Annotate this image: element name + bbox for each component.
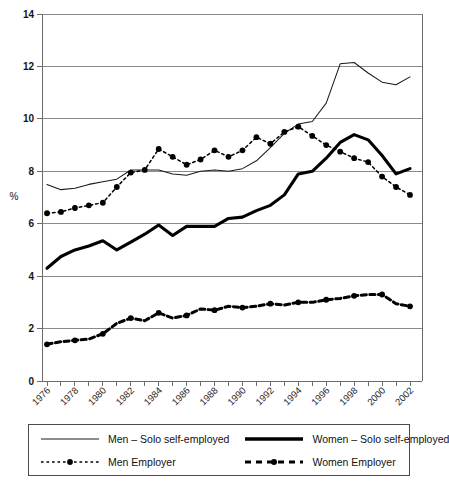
xtick-label-1984: 1984: [141, 385, 164, 408]
ytick-label-2: 2: [28, 323, 34, 334]
marker-women-emp: [295, 299, 301, 305]
legend-label-men-emp: Men Employer: [108, 456, 176, 468]
marker-men-emp: [198, 157, 204, 163]
xtick-label-1996: 1996: [309, 385, 332, 408]
chart-legend: Men – Solo self-employedWomen – Solo sel…: [28, 424, 410, 476]
xtick-label-2002: 2002: [393, 385, 416, 408]
legend-item-men-solo: Men – Solo self-employed: [33, 427, 229, 450]
marker-men-emp: [254, 134, 260, 140]
xtick-label-1978: 1978: [58, 385, 81, 408]
marker-women-emp: [184, 313, 190, 319]
legend-label-women-solo: Women – Solo self-employed: [312, 433, 449, 445]
marker-men-emp: [72, 205, 78, 211]
legend-label-men-solo: Men – Solo self-employed: [108, 433, 229, 445]
marker-men-emp: [295, 124, 301, 130]
marker-men-emp: [323, 142, 329, 148]
legend-swatch-men-emp: [39, 455, 101, 469]
marker-women-emp: [407, 303, 413, 309]
legend-item-women-emp: Women Employer: [229, 450, 449, 473]
marker-men-emp: [114, 184, 120, 190]
marker-men-emp: [351, 155, 357, 161]
xtick-label-1994: 1994: [281, 385, 304, 408]
marker-men-emp: [281, 129, 287, 135]
marker-men-emp: [86, 202, 92, 208]
marker-men-emp: [393, 184, 399, 190]
marker-men-emp: [184, 162, 190, 168]
legend-swatch-men-solo: [39, 432, 101, 446]
marker-men-emp: [226, 154, 232, 160]
marker-men-emp: [128, 170, 134, 176]
legend-item-women-solo: Women – Solo self-employed: [229, 427, 449, 450]
marker-women-emp: [379, 292, 385, 298]
y-axis-title: %: [10, 191, 19, 202]
marker-men-emp: [44, 210, 50, 216]
legend-item-men-emp: Men Employer: [33, 450, 229, 473]
marker-men-emp: [58, 209, 64, 215]
ytick-label-14: 14: [23, 9, 35, 20]
ytick-label-10: 10: [23, 113, 35, 124]
xtick-label-1990: 1990: [225, 385, 248, 408]
marker-men-emp: [100, 200, 106, 206]
marker-men-emp: [379, 174, 385, 180]
marker-men-emp: [267, 141, 273, 147]
marker-men-emp: [212, 147, 218, 153]
marker-women-emp: [323, 297, 329, 303]
marker-men-emp: [240, 147, 246, 153]
marker-men-emp: [156, 146, 162, 152]
xtick-label-1998: 1998: [337, 385, 360, 408]
series-line-women-emp: [47, 294, 410, 344]
xtick-label-1992: 1992: [253, 385, 276, 408]
marker-women-emp: [100, 331, 106, 337]
ytick-label-8: 8: [28, 166, 34, 177]
marker-women-emp: [44, 341, 50, 347]
marker-men-emp: [309, 133, 315, 139]
marker-men-emp: [337, 149, 343, 155]
ytick-label-6: 6: [28, 218, 34, 229]
marker-women-emp: [212, 307, 218, 313]
ytick-label-4: 4: [28, 271, 34, 282]
series-line-men-solo: [47, 63, 410, 190]
xtick-label-1988: 1988: [197, 385, 220, 408]
chart-plot-area: 02468101214%1976197819801982198419861988…: [0, 0, 434, 420]
xtick-label-2000: 2000: [365, 385, 388, 408]
legend-swatch-women-solo: [243, 432, 305, 446]
xtick-label-1980: 1980: [86, 385, 109, 408]
marker-women-emp: [72, 337, 78, 343]
legend-label-women-emp: Women Employer: [312, 456, 395, 468]
legend-swatch-women-emp: [243, 455, 305, 469]
xtick-label-1976: 1976: [30, 385, 53, 408]
marker-men-emp: [170, 154, 176, 160]
xtick-label-1986: 1986: [169, 385, 192, 408]
line-chart: 02468101214%1976197819801982198419861988…: [0, 0, 434, 420]
marker-men-emp: [142, 167, 148, 173]
marker-women-emp: [156, 310, 162, 316]
marker-women-emp: [267, 301, 273, 307]
ytick-label-0: 0: [28, 376, 34, 387]
xtick-label-1982: 1982: [113, 385, 136, 408]
marker-men-emp: [365, 159, 371, 165]
marker-women-emp: [128, 315, 134, 321]
marker-women-emp: [240, 305, 246, 311]
marker-men-emp: [407, 192, 413, 198]
marker-women-emp: [351, 293, 357, 299]
ytick-label-12: 12: [23, 61, 35, 72]
